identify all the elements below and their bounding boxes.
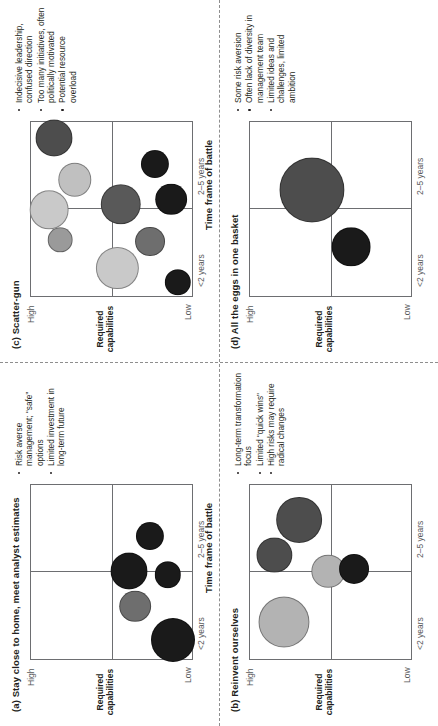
bubble [110, 553, 147, 590]
y-axis-high-label: High [26, 669, 36, 686]
bubble [259, 597, 310, 648]
x-axis-tick-late: 2–5 years [196, 158, 206, 195]
bubble [58, 163, 91, 196]
bubble [279, 158, 344, 223]
insight-bullet: Indecisive leadership, confused directio… [14, 7, 35, 111]
bubble [96, 247, 138, 289]
panel-title-d: (d) All the eggs in one basket [229, 214, 240, 349]
bubble [151, 618, 195, 662]
bubble [276, 497, 322, 543]
plot-area-b [249, 484, 412, 660]
y-axis-high-label: High [26, 306, 36, 323]
y-axis-low-label: Low [183, 667, 193, 683]
insight-bullet: Too many initiatives, often politically … [36, 7, 57, 111]
bubble [136, 522, 164, 550]
rotated-page-stage: Time frame of battle Time frame of battl… [0, 0, 438, 726]
panel-title-a: (a) Stay close to home, meet analyst est… [10, 497, 21, 712]
insight-bullet: Some risk aversion [233, 7, 243, 111]
bubble [100, 184, 140, 224]
bubble [35, 119, 72, 156]
x-axis-tick-late: 2–5 years [415, 521, 425, 558]
x-axis-tick-early: <2 years [196, 254, 206, 287]
bubble [30, 190, 69, 229]
bubble [135, 227, 165, 257]
y-axis-title: Required capabilities [96, 301, 115, 357]
insight-bullet: Risk averse management; “safe” options [14, 370, 45, 474]
x-axis-tick-late: 2–5 years [196, 521, 206, 558]
insight-bullet-list-d: Some risk aversionOften lack of diversit… [233, 7, 298, 111]
bubble [119, 590, 151, 622]
bubble [164, 269, 190, 295]
x-axis-tick-early: <2 years [196, 617, 206, 650]
bubble [141, 150, 169, 178]
panel-title-b: (b) Reinvent ourselves [229, 608, 240, 712]
bubble [332, 227, 371, 266]
insight-bullet: High risks may require radical changes [266, 370, 287, 474]
panel-title-c: (c) Scatter-gun [10, 280, 21, 349]
insight-bullet-list-a: Risk averse management; “safe” optionsLi… [14, 370, 68, 474]
bubble [155, 183, 187, 215]
panel-b: (b) Reinvent ourselvesHighLowRequired ca… [219, 363, 438, 726]
y-axis-low-label: Low [183, 304, 193, 320]
insight-bullet: Long-term transformation focus [233, 370, 254, 474]
x-axis-tick-early: <2 years [415, 617, 425, 650]
y-axis-low-label: Low [402, 667, 412, 683]
y-axis-low-label: Low [402, 304, 412, 320]
y-axis-high-label: High [245, 669, 255, 686]
y-axis-title: Required capabilities [315, 664, 334, 720]
y-axis-high-label: High [245, 306, 255, 323]
insight-bullet-list-c: Indecisive leadership, confused directio… [14, 7, 79, 111]
x-axis-tick-early: <2 years [415, 254, 425, 287]
plot-area-c [30, 121, 193, 297]
panel-d: (d) All the eggs in one basketHighLowReq… [219, 0, 438, 363]
plot-area-d [249, 121, 412, 297]
x-axis-tick-late: 2–5 years [415, 158, 425, 195]
figure-root: Time frame of battle Time frame of battl… [0, 0, 438, 726]
insight-bullet: Limited investment in long-term future [46, 370, 67, 474]
panel-c: (c) Scatter-gunHighLowRequired capabilit… [0, 0, 219, 363]
insight-bullet: Limited ideas and challenges, limited am… [266, 7, 297, 111]
y-axis-title: Required capabilities [96, 664, 115, 720]
bubble [339, 554, 369, 584]
bubble [257, 538, 292, 573]
bubble [48, 227, 73, 252]
insight-bullet: Limited “quick wins” [255, 370, 265, 474]
insight-bullet-list-b: Long-term transformation focusLimited “q… [233, 370, 288, 474]
insight-bullet: Potential resource overload [57, 7, 78, 111]
plot-area-a [30, 484, 193, 660]
panel-a: (a) Stay close to home, meet analyst est… [0, 363, 219, 726]
bubble [155, 561, 181, 587]
y-axis-title: Required capabilities [315, 301, 334, 357]
insight-bullet: Often lack of diversity in management te… [244, 7, 265, 111]
